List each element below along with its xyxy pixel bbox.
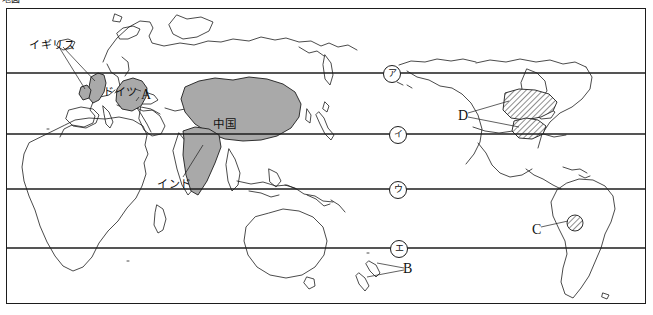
cropped-caption-fragment: 地図 bbox=[2, 0, 28, 4]
latitude-marker-i: イ bbox=[389, 126, 407, 144]
marker-letter-c: C bbox=[532, 222, 541, 238]
world-map-svg bbox=[7, 9, 645, 303]
marker-letter-d: D bbox=[458, 108, 468, 124]
latitude-marker-e: エ bbox=[390, 240, 408, 258]
figure-page: 地図 bbox=[0, 0, 653, 315]
marker-letter-b: B bbox=[403, 261, 412, 277]
label-india: インド bbox=[157, 175, 192, 191]
label-uk: イギリス bbox=[29, 36, 75, 52]
label-china: 中国 bbox=[213, 115, 237, 131]
marker-letter-a: A bbox=[141, 87, 151, 103]
label-germany: ドイツ bbox=[103, 83, 138, 99]
world-map-frame: イギリス ドイツ 中国 インド A B C D ア イ ウ エ bbox=[6, 8, 646, 304]
latitude-marker-a: ア bbox=[383, 65, 401, 83]
latitude-marker-u: ウ bbox=[389, 181, 407, 199]
